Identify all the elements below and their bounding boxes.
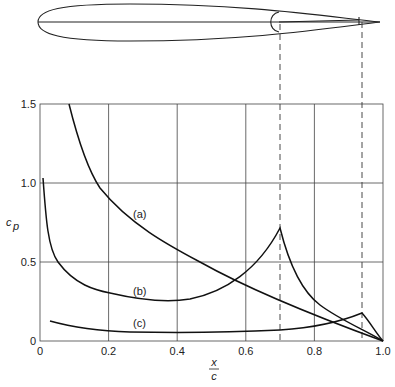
airfoil-diagram <box>38 4 380 41</box>
x-tick-0.6: 0.6 <box>238 345 253 357</box>
x-tick-0.8: 0.8 <box>307 345 322 357</box>
x-tick-1.0: 1.0 <box>375 345 390 357</box>
x-axis-label-num: x <box>210 356 217 368</box>
curve-a <box>69 104 383 341</box>
label-b: (b) <box>133 285 146 297</box>
plot-grid <box>40 104 383 341</box>
label-a: (a) <box>133 208 146 220</box>
curve-c <box>50 313 383 341</box>
y-tick-1.0: 1.0 <box>21 177 36 189</box>
pressure-coefficient-figure: (a) (b) (c) 1.5 1.0 0.5 0 0 0.2 0.4 0.6 … <box>0 0 395 387</box>
label-c: (c) <box>133 317 146 329</box>
curve-b <box>43 178 383 341</box>
y-axis-label-sub: p <box>12 220 19 232</box>
y-tick-0.5: 0.5 <box>21 256 36 268</box>
x-tick-0.2: 0.2 <box>101 345 116 357</box>
x-tick-0.4: 0.4 <box>170 345 185 357</box>
curves <box>43 104 383 341</box>
dashed-markers <box>280 22 362 341</box>
y-axis-label: c <box>6 216 12 228</box>
y-tick-1.5: 1.5 <box>21 98 36 110</box>
y-tick-0: 0 <box>30 335 36 347</box>
x-axis-label-den: c <box>211 370 217 382</box>
x-tick-0: 0 <box>37 345 43 357</box>
